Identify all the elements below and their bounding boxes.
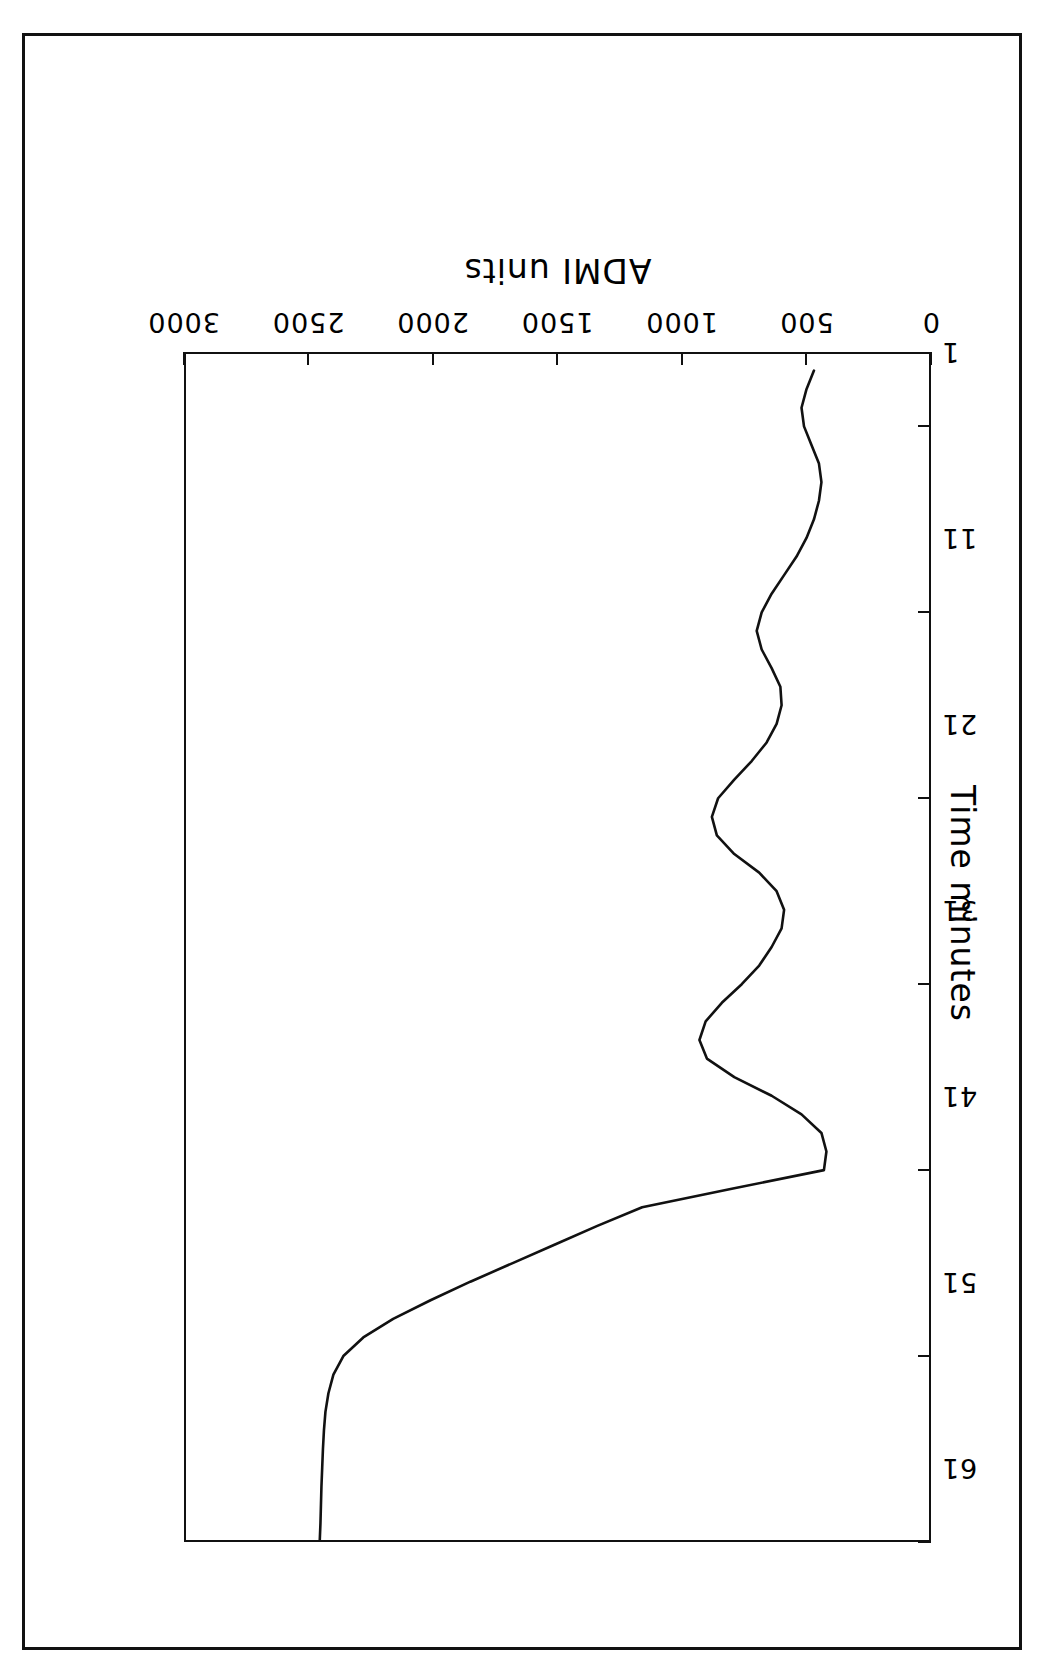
admi-tick-500 — [806, 352, 808, 365]
time-tick-21 — [918, 1169, 931, 1171]
time-tick-31 — [918, 983, 931, 985]
y-ticklabel-2000: 2000 — [397, 307, 469, 338]
y-ticklabel-500: 500 — [771, 307, 843, 338]
time-tick-51 — [918, 611, 931, 613]
admi-tick-3000 — [183, 352, 185, 365]
y-ticklabel-1000: 1000 — [646, 307, 718, 338]
y-ticklabel-1500: 1500 — [522, 307, 594, 338]
y-ticklabel-0: 0 — [895, 307, 967, 338]
admi-tick-1000 — [681, 352, 683, 365]
x-ticklabel-11: 11 — [941, 523, 993, 554]
admi-tick-1500 — [557, 352, 559, 365]
x-ticklabel-51: 51 — [941, 1267, 993, 1298]
data-line-series — [184, 352, 931, 1542]
x-ticklabel-61: 61 — [941, 1453, 993, 1484]
y-axis-title: ADMI units — [458, 251, 658, 290]
rotated-figure: 1112131415161 050010001500200025003000 T… — [0, 0, 1064, 1672]
time-tick-61 — [918, 425, 931, 427]
admi-tick-0 — [930, 352, 932, 365]
y-ticklabel-2500: 2500 — [273, 307, 345, 338]
x-ticklabel-21: 21 — [941, 709, 993, 740]
chart-plot-area — [184, 352, 931, 1542]
time-tick-1 — [918, 1541, 931, 1543]
time-tick-11 — [918, 1355, 931, 1357]
x-axis-title: Time minutes — [943, 785, 982, 1022]
x-ticklabel-1: 1 — [941, 337, 993, 368]
x-ticklabel-41: 41 — [941, 1081, 993, 1112]
time-tick-41 — [918, 797, 931, 799]
y-ticklabel-3000: 3000 — [148, 307, 220, 338]
admi-tick-2500 — [308, 352, 310, 365]
admi-tick-2000 — [432, 352, 434, 365]
